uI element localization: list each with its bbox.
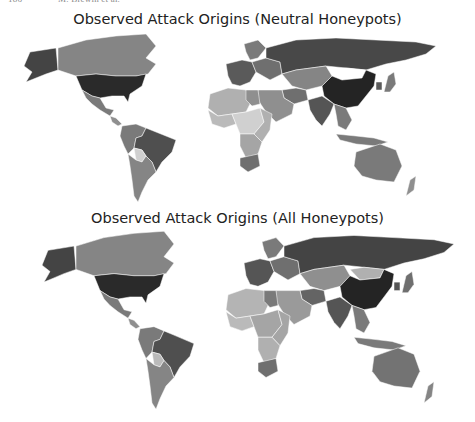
region-central-america [128, 318, 140, 329]
map-title-neutral: Observed Attack Origins (Neutral Honeypo… [0, 11, 475, 27]
region-south-africa [240, 154, 260, 172]
region-western-europe [226, 60, 256, 86]
map-title-all: Observed Attack Origins (All Honeypots) [0, 210, 475, 226]
world-map-all [0, 227, 475, 412]
map-panel-all: Observed Attack Origins (All Honeypots) [0, 205, 475, 422]
map-panel-neutral: Observed Attack Origins (Neutral Honeypo… [0, 0, 475, 205]
region-southeast-asia [334, 104, 352, 130]
region-scandinavia [244, 40, 266, 60]
region-korea [376, 82, 382, 90]
region-south-africa [258, 358, 278, 377]
region-japan [402, 272, 414, 293]
region-korea [394, 282, 400, 290]
region-alaska [42, 246, 76, 282]
region-north-africa [226, 288, 270, 318]
region-australia [372, 348, 420, 388]
region-canada [76, 231, 174, 276]
region-southeast-asia [352, 305, 370, 333]
region-new-zealand [424, 382, 434, 403]
region-western-europe [244, 259, 274, 287]
region-australia [354, 144, 402, 182]
world-map-neutral [0, 30, 475, 205]
region-scandinavia [262, 238, 284, 259]
region-japan [384, 72, 396, 92]
region-canada [58, 34, 156, 76]
region-alaska [24, 48, 58, 82]
region-north-africa [208, 88, 252, 116]
region-central-america [110, 116, 122, 126]
region-new-zealand [406, 176, 416, 196]
